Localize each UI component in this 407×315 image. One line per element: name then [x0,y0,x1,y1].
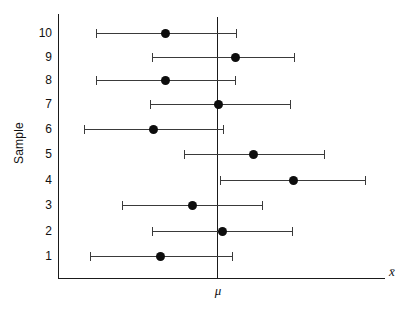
interval-lower-cap [90,252,91,261]
x-axis-line [58,278,385,279]
interval-lower-cap [122,201,123,210]
interval-upper-cap [262,201,263,210]
interval-upper-cap [365,176,366,185]
y-tick-label-4: 4 [28,173,52,187]
sample-mean-marker [231,53,240,62]
mu-axis-label: μ [215,283,222,299]
y-axis-line [58,14,59,279]
sample-mean-marker [218,227,227,236]
y-tick-label-8: 8 [28,73,52,87]
sample-mean-marker [161,29,170,38]
sample-mean-marker [149,125,158,134]
sample-mean-marker [156,252,165,261]
interval-upper-cap [223,125,224,134]
interval-lower-cap [152,53,153,62]
y-tick-label-6: 6 [28,122,52,136]
y-tick-label-10: 10 [28,26,52,40]
y-axis-tick-labels: 10987654321 [26,0,52,315]
confidence-interval-chart: Sample 10987654321 μ x̄ [0,0,407,315]
interval-line [152,57,294,58]
interval-lower-cap [96,29,97,38]
sample-mean-marker [188,201,197,210]
sample-mean-marker [289,176,298,185]
interval-lower-cap [184,150,185,159]
y-tick-label-3: 3 [28,198,52,212]
interval-lower-cap [220,176,221,185]
sample-mean-marker [161,76,170,85]
interval-lower-cap [152,227,153,236]
interval-upper-cap [324,150,325,159]
interval-upper-cap [236,29,237,38]
y-tick-label-2: 2 [28,224,52,238]
sample-mean-marker [249,150,258,159]
interval-upper-cap [232,252,233,261]
y-tick-label-5: 5 [28,147,52,161]
y-tick-label-7: 7 [28,97,52,111]
interval-lower-cap [96,76,97,85]
interval-upper-cap [290,100,291,109]
sample-mean-marker [214,100,223,109]
y-tick-label-9: 9 [28,50,52,64]
y-axis-title: Sample [12,108,26,178]
x-axis-title: x̄ [389,264,395,280]
interval-upper-cap [235,76,236,85]
y-tick-label-1: 1 [28,249,52,263]
interval-lower-cap [84,125,85,134]
interval-upper-cap [292,227,293,236]
interval-upper-cap [294,53,295,62]
interval-lower-cap [150,100,151,109]
